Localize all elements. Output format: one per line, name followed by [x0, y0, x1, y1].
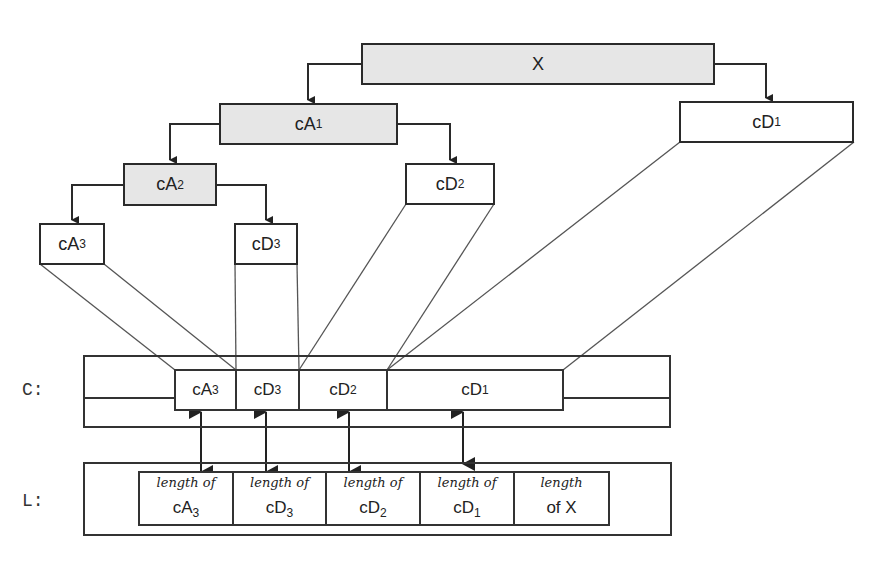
node-ca2: cA2	[123, 163, 217, 206]
l-cell-prefix: length of	[421, 475, 513, 490]
node-ca3: cA3	[39, 223, 105, 265]
l-cell-x: length of X	[513, 471, 610, 526]
node-ca2-sub: 2	[177, 178, 184, 192]
node-cd1-label: cD	[752, 112, 774, 133]
node-cd3-label: cD	[252, 234, 274, 255]
l-cell-prefix: length of	[234, 475, 325, 490]
node-cd2-label: cD	[436, 174, 458, 195]
l-cell-base: cA	[173, 498, 193, 517]
node-cd3: cD3	[234, 223, 298, 265]
node-ca3-sub: 3	[79, 237, 86, 251]
l-row-label: L:	[22, 491, 44, 511]
l-cell-base: cD	[453, 498, 474, 517]
node-x-label: X	[532, 54, 544, 75]
l-cell-prefix: length	[515, 475, 608, 490]
node-ca2-label: cA	[156, 174, 177, 195]
c-row-outer	[83, 355, 671, 428]
l-cell-sub: 1	[474, 506, 481, 520]
l-cell-sub: 3	[287, 506, 294, 520]
l-cell-base: cD	[266, 498, 287, 517]
node-x: X	[361, 43, 715, 85]
l-cell-name: cA3	[140, 498, 232, 520]
node-ca1-sub: 1	[316, 117, 323, 131]
l-cell-sub: 2	[380, 506, 387, 520]
l-cell-cd3: length of cD3	[232, 471, 327, 526]
node-ca3-label: cA	[58, 234, 79, 255]
l-cell-sub: 3	[193, 506, 200, 520]
node-cd1: cD1	[679, 101, 854, 143]
l-cell-name: cD2	[327, 498, 419, 520]
node-ca1-label: cA	[295, 114, 316, 135]
l-cell-name: cD3	[234, 498, 325, 520]
l-cell-base: of X	[546, 498, 576, 517]
l-cell-ca3: length of cA3	[138, 471, 234, 526]
node-cd2-sub: 2	[458, 177, 465, 191]
l-cell-cd1: length of cD1	[419, 471, 515, 526]
l-cell-cd2: length of cD2	[325, 471, 421, 526]
l-cell-name: of X	[515, 498, 608, 520]
c-row-label: C:	[22, 380, 44, 400]
node-cd3-sub: 3	[274, 237, 281, 251]
l-cell-prefix: length of	[327, 475, 419, 490]
l-cell-prefix: length of	[140, 475, 232, 490]
l-cell-name: cD1	[421, 498, 513, 520]
node-cd1-sub: 1	[774, 115, 781, 129]
l-cell-base: cD	[359, 498, 380, 517]
node-ca1: cA1	[219, 103, 398, 145]
node-cd2: cD2	[405, 163, 495, 205]
